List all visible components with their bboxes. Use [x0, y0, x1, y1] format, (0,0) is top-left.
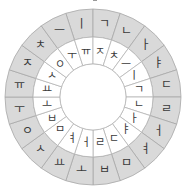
inner-jamo-label: ㄴ — [134, 98, 144, 111]
outer-jamo-label: ㅑ — [153, 56, 164, 70]
outer-jamo-label: ㄴ — [121, 24, 132, 38]
outer-jamo-label: ㅛ — [54, 156, 65, 170]
inner-jamo-label: ㅣ — [129, 69, 139, 82]
inner-jamo-label: ㅗ — [42, 98, 52, 111]
inner-jamo-label: ㅠ — [81, 45, 91, 58]
inner-jamo-label: ㅁ — [55, 123, 65, 136]
inner-jamo-label: ㄱ — [134, 83, 144, 96]
outer-jamo-label: ㅊ — [35, 38, 46, 52]
outer-jamo-label: ㅇ — [22, 124, 33, 138]
inner-jamo-label: ㅓ — [81, 136, 91, 149]
outer-jamo-label: ㄹ — [161, 102, 172, 116]
outer-jamo-label: ㅏ — [140, 38, 151, 52]
outer-jamo-label: ㅗ — [76, 163, 87, 177]
inner-jamo-label: ㄹ — [95, 136, 105, 149]
inner-jamo-label: ㅇ — [55, 58, 65, 71]
inner-jamo-label: ㅅ — [47, 69, 57, 82]
wheel-hub[interactable] — [60, 64, 126, 130]
outer-jamo-label: ㄷ — [161, 78, 172, 92]
outer-jamo-label: ㅈ — [22, 56, 33, 70]
inner-jamo-label: ㄷ — [109, 132, 119, 145]
inner-jamo-label: ㅛ — [42, 83, 52, 96]
outer-jamo-label: ㅣ — [76, 17, 87, 31]
outer-jamo-label: ㅜ — [14, 102, 25, 116]
inner-jamo-label: ㅂ — [47, 112, 57, 125]
outer-jamo-label: ㅕ — [140, 142, 151, 156]
outer-jamo-label: ㅂ — [99, 163, 110, 177]
outer-jamo-label: ㄱ — [99, 17, 110, 31]
outer-jamo-label: ㅓ — [153, 124, 164, 138]
outer-jamo-label: ㅠ — [14, 78, 25, 92]
inner-jamo-label: ㅈ — [95, 45, 105, 58]
inner-jamo-label: ㅊ — [109, 49, 119, 62]
inner-jamo-label: ㅏ — [129, 112, 139, 125]
outer-jamo-label: ㅅ — [35, 142, 46, 156]
outer-jamo-label: ㅡ — [54, 24, 65, 38]
hangul-jamo-wheel: ㅣㄱㄴㅏㅑㄷㄹㅓㅕㅁㅂㅗㅛㅅㅇㅜㅠㅈㅊㅡ ㅜㅠㅈㅊㅡㅣㄱㄴㅏㅑㄷㄹㅓㅕㅁㅂㅗㅛㅅ… — [0, 0, 185, 187]
outer-jamo-label: ㅁ — [121, 156, 132, 170]
inner-jamo-label: ㅜ — [67, 49, 77, 62]
inner-jamo-label: ㅕ — [67, 132, 77, 145]
inner-jamo-label: ㅑ — [121, 123, 131, 136]
